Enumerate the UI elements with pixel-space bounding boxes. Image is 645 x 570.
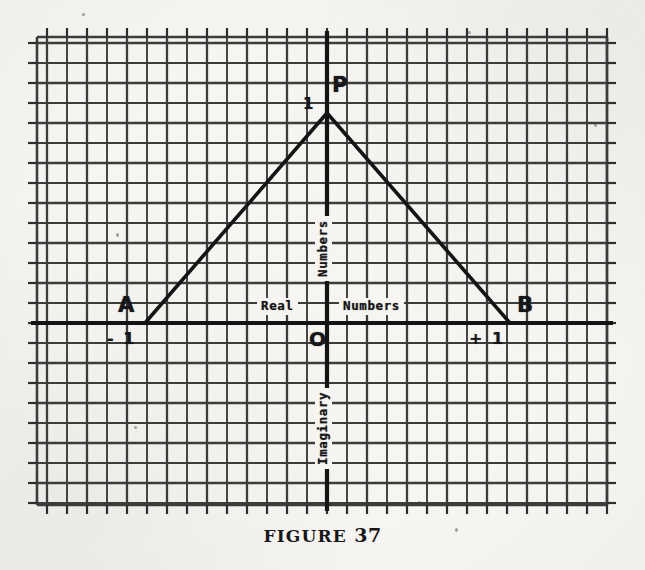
figure-linework bbox=[37, 37, 607, 505]
segment-p-to-b bbox=[327, 113, 510, 323]
figure-caption-number: 37 bbox=[354, 524, 381, 546]
figure-caption-word: FIGURE bbox=[263, 526, 347, 546]
segment-a-to-p bbox=[145, 113, 327, 323]
figure-caption: FIGURE 37 bbox=[0, 524, 645, 546]
complex-plane-plot: P 1 A - 1 B + 1 O Real Numbers Numbers I… bbox=[37, 37, 607, 505]
